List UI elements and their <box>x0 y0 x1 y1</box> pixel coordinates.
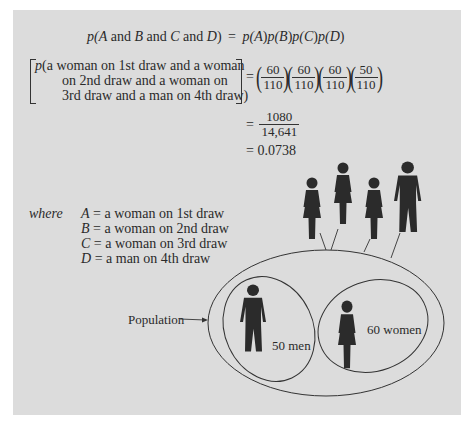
drawn-woman-3-icon <box>365 178 383 240</box>
draw-connectors <box>320 229 400 258</box>
men-count-label: 50 men <box>272 338 311 354</box>
drawn-woman-2-icon <box>334 163 352 225</box>
woman-population-icon <box>338 301 356 369</box>
population-label: Population <box>128 312 184 328</box>
drawn-woman-1-icon <box>303 178 321 240</box>
men-ellipse <box>206 261 331 396</box>
man-population-icon <box>240 284 266 351</box>
population-diagram <box>0 0 471 427</box>
drawn-man-icon <box>394 162 421 233</box>
women-count-label: 60 women <box>367 322 422 338</box>
